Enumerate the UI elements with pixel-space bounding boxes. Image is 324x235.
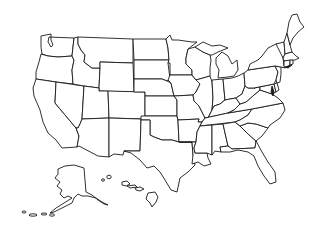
aleutian-island[interactable]: [29, 214, 37, 216]
hawaii-island-kauai[interactable]: [107, 175, 111, 179]
state-kansas[interactable]: [145, 96, 177, 116]
state-wyoming[interactable]: [99, 62, 134, 92]
state-arizona[interactable]: [76, 118, 109, 157]
hawaii-island-niihau[interactable]: [102, 179, 105, 181]
aleutian-island[interactable]: [22, 211, 26, 213]
hawaii-island-big[interactable]: [146, 192, 158, 207]
hawaii-island-maui[interactable]: [135, 187, 144, 191]
state-washington[interactable]: [41, 34, 74, 57]
alaska-inset: [22, 165, 108, 216]
aleutian-island[interactable]: [50, 214, 55, 216]
state-alaska[interactable]: [50, 165, 108, 213]
aleutian-island[interactable]: [41, 213, 47, 215]
state-north-dakota[interactable]: [133, 39, 169, 60]
hawaii-inset: [102, 175, 159, 207]
state-michigan-lower[interactable]: [216, 52, 238, 78]
state-rhode-island[interactable]: [290, 60, 293, 65]
state-colorado[interactable]: [108, 91, 145, 119]
hawaii-island-oahu[interactable]: [122, 181, 130, 186]
state-maine[interactable]: [287, 14, 304, 45]
state-utah[interactable]: [82, 86, 109, 119]
us-states-outline-map: [0, 0, 324, 235]
state-south-dakota[interactable]: [134, 60, 170, 81]
